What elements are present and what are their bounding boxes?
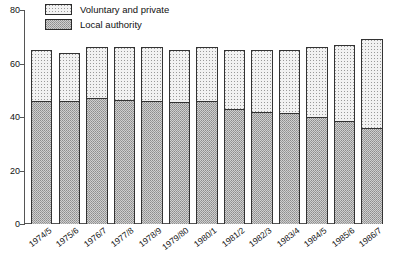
x-axis-tick-labels: 1974/51975/61976/71977/81978/91979/80198… [24, 224, 382, 257]
x-tick-label-1978-9: 1978/9 [137, 226, 163, 249]
bar-1975-6 [59, 53, 80, 224]
bar-segment-voluntary-and-private [87, 48, 106, 99]
bar-segment-voluntary-and-private [225, 51, 244, 110]
bar-segment-voluntary-and-private [307, 48, 326, 118]
x-tick-label-1982-3: 1982/3 [248, 226, 274, 249]
bar-1982-3 [251, 50, 272, 224]
bar-segment-local-authority [225, 110, 244, 224]
y-tick-20 [20, 171, 25, 172]
bar-segment-voluntary-and-private [252, 51, 271, 113]
bar-segment-local-authority [87, 99, 106, 224]
x-tick-label-1979-80: 1979/80 [161, 226, 191, 252]
bar-segment-local-authority [32, 102, 51, 224]
x-tick-label-1986-7: 1986/7 [358, 226, 384, 249]
bar-1983-4 [279, 50, 300, 224]
bar-segment-local-authority [252, 113, 271, 224]
x-tick-label-1975-6: 1975/6 [55, 226, 81, 249]
bar-1981-2 [224, 50, 245, 224]
bar-segment-local-authority [170, 103, 189, 224]
y-tick-40 [20, 117, 25, 118]
bar-segment-voluntary-and-private [197, 48, 216, 102]
y-tick-label-80: 80 [10, 6, 20, 15]
bar-segment-voluntary-and-private [280, 51, 299, 114]
y-tick-80 [20, 10, 25, 11]
bar-segment-local-authority [142, 102, 161, 224]
bar-1984-5 [306, 47, 327, 224]
bar-segment-voluntary-and-private [362, 40, 381, 128]
y-axis-tick-labels: 020406080 [0, 10, 20, 224]
bar-segment-voluntary-and-private [170, 51, 189, 103]
bar-segment-voluntary-and-private [60, 54, 79, 102]
y-tick-60 [20, 64, 25, 65]
bar-1977-8 [114, 47, 135, 224]
bar-segment-voluntary-and-private [335, 46, 354, 122]
bar-segment-local-authority [280, 114, 299, 224]
bar-1974-5 [31, 50, 52, 224]
stacked-bar-chart: Voluntary and private Local authority 02… [0, 0, 400, 257]
bar-segment-local-authority [60, 102, 79, 224]
bar-1978-9 [141, 47, 162, 224]
bar-segment-local-authority [197, 102, 216, 224]
bar-1980-1 [196, 47, 217, 224]
bar-segment-voluntary-and-private [32, 51, 51, 102]
y-tick-label-40: 40 [10, 113, 20, 122]
bar-segment-voluntary-and-private [115, 48, 134, 100]
x-tick-label-1974-5: 1974/5 [27, 226, 53, 249]
x-tick-label-1983-4: 1983/4 [275, 226, 301, 249]
bar-segment-local-authority [335, 122, 354, 224]
bar-segment-local-authority [115, 101, 134, 224]
x-tick-label-1976-7: 1976/7 [82, 226, 108, 249]
bar-1985-6 [334, 45, 355, 224]
x-tick-label-1980-1: 1980/1 [193, 226, 219, 249]
x-tick-label-1984-5: 1984/5 [303, 226, 329, 249]
x-tick-label-1981-2: 1981/2 [220, 226, 246, 249]
bar-segment-voluntary-and-private [142, 48, 161, 102]
bar-1986-7 [361, 39, 382, 224]
bar-1979-80 [169, 50, 190, 224]
x-tick-label-1985-6: 1985/6 [330, 226, 356, 249]
x-tick-label-1977-8: 1977/8 [110, 226, 136, 249]
plot-area [24, 10, 382, 224]
bar-segment-local-authority [307, 118, 326, 224]
y-tick-label-20: 20 [10, 166, 20, 175]
bar-segment-local-authority [362, 129, 381, 224]
bar-1976-7 [86, 47, 107, 224]
y-tick-label-60: 60 [10, 59, 20, 68]
